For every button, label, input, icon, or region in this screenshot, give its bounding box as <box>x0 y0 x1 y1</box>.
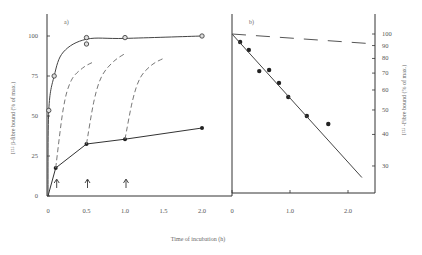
panel-b-data-point <box>326 122 330 126</box>
panel-a-y-tick-label: 50 <box>32 112 39 119</box>
panel-b-fit-line <box>232 34 362 178</box>
panel-b-y-tick-label: 90 <box>382 42 389 49</box>
panel-a-dashed-curve <box>125 58 164 139</box>
panel-b-x-tick-label: 2.0 <box>344 207 352 214</box>
panel-b-y-tick-label: 40 <box>382 130 389 137</box>
panel-a-open-point <box>200 34 204 38</box>
panel-a-x-tick-label: 2.0 <box>198 207 206 214</box>
panel-a-open-point <box>52 74 56 78</box>
panel-b-data-point <box>267 68 271 72</box>
panel-b-x-tick-label: 1.0 <box>286 207 294 214</box>
panel-a-open-point <box>84 42 88 46</box>
panel-b-y-axis-title: I¹²⁵ -Fibre bound (% of max.) <box>401 65 408 136</box>
panel-a-x-tick-label: 1.0 <box>121 207 129 214</box>
panel-b-y-tick-label: 30 <box>382 162 389 169</box>
panel-a-x-tick-label: 1.5 <box>159 207 167 214</box>
panel-b-y-tick-label: 100 <box>382 30 392 37</box>
panel-b: b) I¹²⁵ -Fibre bound (% of max.) 01.02.0… <box>230 14 408 214</box>
arrow-up-icon <box>54 179 59 188</box>
panel-b-dashed-line <box>232 34 375 44</box>
panel-b-y-tick-label: 70 <box>382 69 389 76</box>
x-axis-title: Time of incubation (h) <box>171 236 225 243</box>
panel-a-dashed-curve <box>87 54 126 144</box>
panel-a-x-tick-label: 0.5 <box>82 207 90 214</box>
panel-a-y-tick-label: 0 <box>35 192 38 199</box>
panel-b-x-tick-label: 0 <box>230 207 233 214</box>
arrow-up-icon <box>85 179 90 188</box>
panel-a-open-point <box>84 35 88 39</box>
arrow-up-icon <box>124 179 129 188</box>
panel-a-series-line <box>48 36 202 196</box>
panel-a-y-axis-title: I¹²⁵ β-fibre bound (% of max.) <box>10 82 17 154</box>
panel-a-x-tick-label: 0 <box>46 207 49 214</box>
panel-a-label: a) <box>64 19 69 26</box>
panel-a-y-tick-label: 25 <box>32 152 39 159</box>
panel-b-y-tick-label: 60 <box>382 86 389 93</box>
panel-b-data-point <box>257 69 261 73</box>
panel-b-y-tick-label: 50 <box>382 106 389 113</box>
panel-b-label: b) <box>249 19 254 26</box>
panel-a-dashed-curve <box>56 62 94 168</box>
panel-a-y-tick-label: 75 <box>32 72 39 79</box>
figure: a) I¹²⁵ β-fibre bound (% of max.) 00.51.… <box>0 0 422 255</box>
panel-a-y-tick-label: 100 <box>28 32 38 39</box>
panel-b-y-tick-label: 80 <box>382 54 389 61</box>
panel-a-filled-point <box>200 126 204 130</box>
panel-a: a) I¹²⁵ β-fibre bound (% of max.) 00.51.… <box>10 14 232 214</box>
panel-a-open-point <box>47 108 51 112</box>
panel-a-open-point <box>123 35 127 39</box>
